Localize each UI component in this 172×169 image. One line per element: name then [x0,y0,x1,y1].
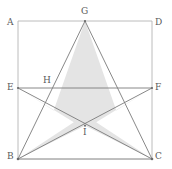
vertex-label-i: I [83,128,87,137]
geometry-figure: A D B C E F G H I [0,0,172,169]
figure-canvas [0,0,172,169]
vertex-dot-e [17,87,19,89]
star-fill-shape [18,21,152,159]
vertex-label-c: C [155,152,162,161]
vertex-label-d: D [155,18,162,27]
vertex-label-h: H [43,76,51,85]
vertex-label-b: B [7,152,14,161]
vertex-dot-f [151,87,153,89]
vertex-dot-c [151,158,154,161]
vertex-dot-b [17,158,20,161]
vertex-label-e: E [7,83,14,92]
vertex-label-a: A [7,18,14,27]
vertex-label-f: F [155,83,161,92]
vertex-dot-g [84,20,86,22]
vertex-label-g: G [81,7,88,16]
